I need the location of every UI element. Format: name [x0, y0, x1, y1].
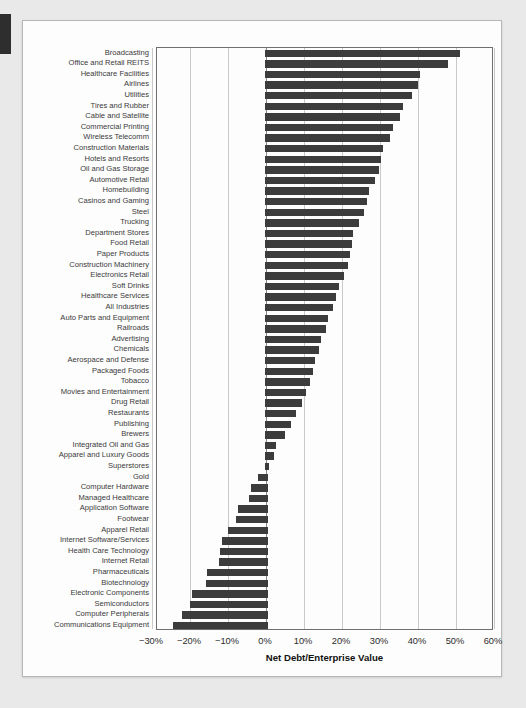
bar-base-stub: [266, 611, 268, 619]
bar-base-stub: [266, 516, 268, 524]
bar-base-stub: [266, 527, 268, 535]
bar-base-stub: [266, 505, 268, 513]
bar-chart: BroadcastingOffice and Retail REITSHealt…: [23, 21, 501, 676]
bar-row: [157, 165, 492, 176]
bar-row: [157, 154, 492, 165]
bar: [236, 516, 266, 524]
bar: [266, 293, 336, 301]
bar: [266, 156, 381, 164]
bar-row: [157, 112, 492, 123]
bar: [266, 421, 291, 429]
bar-base-stub: [265, 60, 267, 68]
bar: [266, 325, 326, 333]
bar: [266, 399, 302, 407]
bar-row: [157, 483, 492, 494]
bar-base-stub: [265, 431, 267, 439]
bar-row: [157, 589, 492, 600]
bar-row: [157, 133, 492, 144]
bar: [206, 580, 266, 588]
bar-base-stub: [265, 346, 267, 354]
bar: [266, 124, 393, 132]
category-label: Communications Equipment: [54, 619, 149, 630]
bar-base-stub: [265, 410, 267, 418]
bar: [266, 431, 285, 439]
bar-row: [157, 334, 492, 345]
bar-row: [157, 387, 492, 398]
bar-base-stub: [265, 230, 267, 238]
bar-row: [157, 260, 492, 271]
x-tick-label: 40%: [408, 636, 427, 646]
bar-base-stub: [265, 399, 267, 407]
x-tick-label: −30%: [139, 636, 163, 646]
bar-row: [157, 493, 492, 504]
bar: [266, 187, 369, 195]
bar-base-stub: [265, 198, 267, 206]
bar-row: [157, 536, 492, 547]
bar-base-stub: [265, 325, 267, 333]
bar: [266, 134, 389, 142]
bar-row: [157, 292, 492, 303]
bar-row: [157, 567, 492, 578]
x-tick-label: 20%: [332, 636, 351, 646]
bar: [266, 442, 275, 450]
bar-base-stub: [266, 590, 268, 598]
bar-base-stub: [265, 103, 267, 111]
bar: [266, 60, 448, 68]
bar-base-stub: [266, 474, 268, 482]
bar-row: [157, 599, 492, 610]
bar-series: [157, 48, 492, 629]
bar: [266, 452, 274, 460]
bar-row: [157, 143, 492, 154]
bar-base-stub: [265, 134, 267, 142]
bar: [266, 368, 313, 376]
bar: [228, 527, 266, 535]
bar: [207, 569, 266, 577]
bar-row: [157, 302, 492, 313]
bar-base-stub: [266, 548, 268, 556]
bar: [266, 304, 332, 312]
bar-base-stub: [265, 336, 267, 344]
bar-row: [157, 239, 492, 250]
x-axis-title: Net Debt/Enterprise Value: [156, 652, 493, 663]
bar-base-stub: [265, 389, 267, 397]
bar-row: [157, 313, 492, 324]
bar: [173, 622, 266, 630]
bar-base-stub: [265, 272, 267, 280]
bar-base-stub: [265, 177, 267, 185]
bar-row: [157, 366, 492, 377]
bar-base-stub: [265, 240, 267, 248]
bar: [258, 474, 266, 482]
bar: [266, 209, 364, 217]
bar-base-stub: [266, 495, 268, 503]
bar: [266, 103, 403, 111]
bar-row: [157, 504, 492, 515]
bar-row: [157, 207, 492, 218]
bar: [266, 346, 319, 354]
bar-row: [157, 80, 492, 91]
bar: [266, 92, 412, 100]
bar: [266, 50, 460, 58]
bar: [192, 590, 266, 598]
bar-base-stub: [266, 622, 268, 630]
bar-base-stub: [265, 81, 267, 89]
bar-row: [157, 557, 492, 568]
bar-base-stub: [265, 71, 267, 79]
bar-base-stub: [265, 145, 267, 153]
bar: [266, 336, 321, 344]
bar-base-stub: [265, 209, 267, 217]
bar-base-stub: [266, 558, 268, 566]
plot-area: [156, 47, 493, 630]
bar: [266, 219, 359, 227]
bar-row: [157, 59, 492, 70]
x-tick-label: 0%: [258, 636, 271, 646]
bar-row: [157, 440, 492, 451]
bar-base-stub: [265, 124, 267, 132]
bar-row: [157, 249, 492, 260]
bar-row: [157, 228, 492, 239]
bar-base-stub: [266, 569, 268, 577]
bar-row: [157, 419, 492, 430]
bar-row: [157, 271, 492, 282]
bar-row: [157, 281, 492, 292]
bar-row: [157, 175, 492, 186]
bar-base-stub: [265, 262, 267, 270]
